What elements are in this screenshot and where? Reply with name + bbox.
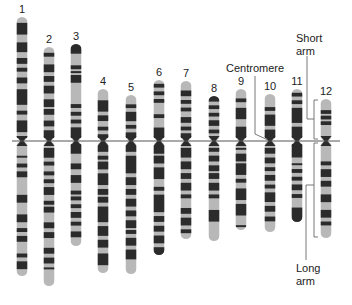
short-arm-label: Short arm [296, 32, 322, 58]
chromosome-1 [16, 17, 28, 276]
chromosome-label-2: 2 [41, 33, 57, 45]
chromosome-label-1: 1 [14, 3, 30, 15]
chromosome-11 [291, 89, 303, 222]
karyotype-diagram: 123456789101112 Centromere Short arm Lon… [0, 0, 352, 305]
chromosome-4 [97, 89, 109, 273]
chromosome-8 [208, 96, 220, 241]
short-arm [265, 94, 276, 142]
long-arm [44, 140, 55, 286]
centromere-label: Centromere [226, 62, 284, 75]
long-arm [292, 140, 303, 222]
long-arm [71, 140, 82, 246]
chromosome-label-5: 5 [123, 81, 139, 93]
long-arm [17, 140, 28, 276]
long-arm [321, 140, 332, 238]
short-arm [44, 47, 55, 142]
long-arm-pointer [306, 185, 314, 260]
chromosome-label-9: 9 [233, 75, 249, 87]
chromosome-10 [264, 94, 276, 232]
chromosome-5 [125, 95, 137, 274]
short-arm [236, 89, 247, 142]
chromosome-12 [320, 99, 332, 238]
long-arm [236, 140, 247, 230]
long-arm-label: Long arm [296, 262, 320, 288]
short-arm-pointer [307, 56, 314, 119]
short-arm [321, 99, 332, 142]
short-arm [71, 44, 82, 142]
chromosome-label-11: 11 [289, 75, 305, 87]
short-arm [209, 96, 220, 142]
chromosome-label-7: 7 [178, 67, 194, 79]
short-arm [98, 89, 109, 142]
long-arm [98, 140, 109, 273]
chromosome-label-10: 10 [262, 80, 278, 92]
chromosome-7 [180, 81, 192, 239]
long-arm [265, 140, 276, 232]
chromosome-label-12: 12 [318, 85, 334, 97]
chromosome-label-3: 3 [68, 30, 84, 42]
long-arm-bracket [314, 143, 318, 237]
short-arm [292, 89, 303, 142]
short-arm [17, 17, 28, 142]
chromosome-6 [153, 80, 165, 255]
chromosome-label-6: 6 [151, 66, 167, 78]
chromosome-3 [70, 44, 82, 246]
chromosome-label-8: 8 [206, 82, 222, 94]
chromosome-9 [235, 89, 247, 230]
short-arm [181, 81, 192, 142]
long-arm [126, 140, 137, 274]
short-arm [126, 95, 137, 142]
chromosome-2 [43, 47, 55, 286]
long-arm [154, 140, 165, 255]
long-arm [181, 140, 192, 239]
short-arm-bracket [314, 100, 318, 139]
long-arm [209, 140, 220, 241]
short-arm [154, 80, 165, 142]
chromosome-label-4: 4 [95, 75, 111, 87]
